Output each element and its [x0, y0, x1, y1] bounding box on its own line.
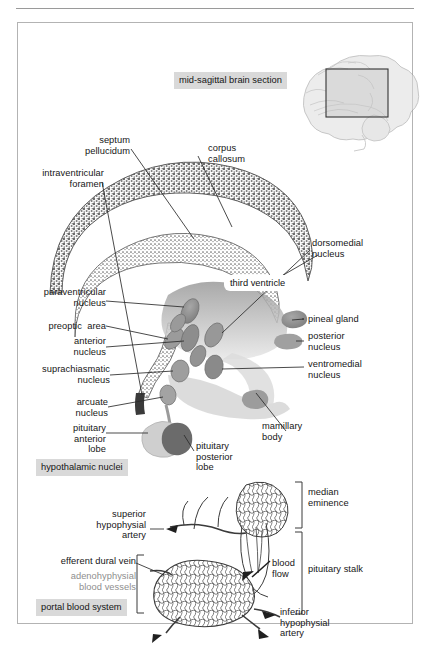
caption-portal-blood-system: portal blood system: [36, 599, 127, 616]
label-inferior-hypophysial-artery: inferior hypophysial artery: [280, 607, 384, 639]
label-superior-hypophysial-artery: superior hypophysial artery: [48, 509, 146, 541]
label-efferent-dural-vein: efferent dural vein: [32, 556, 136, 567]
label-suprachiasmatic-nucleus: suprachiasmatic nucleus: [18, 364, 110, 385]
label-corpus-callosum: corpus callosum: [208, 143, 298, 164]
figure-frame: mid-sagittal brain section septum pelluc…: [17, 22, 413, 624]
label-adenohyphysial-blood-vessels: adenohyphysial blood vessels: [34, 571, 136, 592]
caption-mid-sagittal-brain-section: mid-sagittal brain section: [174, 72, 287, 89]
arrow-outflow-left: [152, 634, 162, 643]
label-third-ventricle: third ventricle: [224, 275, 291, 291]
label-mamillary-body: mamillary body: [262, 421, 342, 442]
label-ventromedial-nucleus: ventromedial nucleus: [308, 359, 408, 380]
label-posterior-nucleus: posterior nucleus: [308, 331, 404, 352]
label-anterior-nucleus: anterior nucleus: [18, 336, 106, 357]
label-intraventricular-foramen: intraventricular foramen: [18, 168, 104, 189]
label-blood-flow: blood flow: [272, 558, 324, 579]
label-dorsomedial-nucleus: dorsomedial nucleus: [312, 238, 408, 259]
label-pineal-gland: pineal gland: [308, 314, 404, 325]
caption-hypothalamic-nuclei: hypothalamic nuclei: [36, 459, 128, 476]
header-rule: [16, 8, 414, 9]
figure-page: mid-sagittal brain section septum pelluc…: [0, 0, 430, 646]
label-pituitary-anterior-lobe: pituitary anterior lobe: [18, 423, 106, 455]
label-preoptic-area: preoptic area: [18, 321, 106, 332]
label-paraventricular-nucleus: paraventricular nucleus: [18, 287, 106, 308]
label-septum-pellucidum: septum pellucidum: [36, 135, 130, 156]
label-pituitary-posterior-lobe: pituitary posterior lobe: [196, 441, 266, 473]
label-median-eminence: median eminence: [308, 487, 404, 508]
label-arcuate-nucleus: arcuate nucleus: [18, 397, 108, 418]
arrow-outflow-right: [258, 629, 269, 639]
figure-labels: mid-sagittal brain section septum pelluc…: [18, 23, 414, 625]
